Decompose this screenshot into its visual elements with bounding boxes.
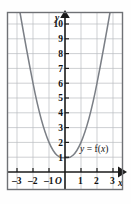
curve-function-label: y=f(x) xyxy=(79,144,108,155)
y-tick-label-3: 3 xyxy=(58,123,63,133)
curve-label-close: ) xyxy=(105,144,108,155)
y-tick-label-4: 4 xyxy=(58,108,63,118)
origin-label: O xyxy=(55,176,62,186)
figure-parabola: 1 2 3 4 5 6 7 8 9 10 –3 –2 –1 1 2 3 O x … xyxy=(0,0,131,204)
y-tick-label-6: 6 xyxy=(58,79,63,89)
y-axis-name: y xyxy=(54,13,60,23)
y-tick-label-5: 5 xyxy=(58,93,63,103)
y-tick-label-8: 8 xyxy=(58,49,63,59)
y-tick-label-9: 9 xyxy=(58,34,63,44)
x-tick-label-1: 1 xyxy=(78,176,83,186)
x-tick-label-neg1: –1 xyxy=(43,176,54,186)
y-tick-label-7: 7 xyxy=(58,64,63,74)
x-tick-label-neg2: –2 xyxy=(27,176,38,186)
x-tick-label-neg3: –3 xyxy=(11,176,22,186)
svg-text:y=f(x): y=f(x) xyxy=(79,144,108,155)
plot-area: 1 2 3 4 5 6 7 8 9 10 –3 –2 –1 1 2 3 O x … xyxy=(0,0,131,204)
y-tick-label-2: 2 xyxy=(58,138,63,148)
curve-label-eq: = xyxy=(87,144,92,154)
y-tick-label-1: 1 xyxy=(58,153,63,163)
x-tick-label-3: 3 xyxy=(110,176,115,186)
x-tick-label-2: 2 xyxy=(94,176,99,186)
curve-label-y: y xyxy=(79,144,85,154)
